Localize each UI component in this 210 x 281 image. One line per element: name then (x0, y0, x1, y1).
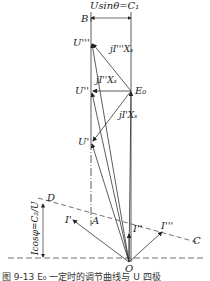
label-u3: U''' (73, 37, 90, 48)
figure-caption: 图 9-13 E₀ 一定时的调节曲线与 U 四极 (2, 271, 161, 281)
label-jI3Xs: jI'''Xₛ (108, 44, 133, 54)
label-i3: I''' (160, 220, 173, 231)
label-i2: I'' (132, 223, 142, 234)
label-u2: U'' (75, 85, 89, 96)
label-c: C (193, 235, 201, 246)
label-jI2Xs: jI''Xₛ (94, 75, 117, 85)
label-jI1Xs: jI'Xₛ (117, 110, 137, 120)
label-i1: I' (64, 214, 72, 225)
label-u1: U' (78, 136, 89, 147)
label-b: B (80, 13, 88, 24)
phasor-diagram: Usinθ=C₁ B U''' jI'''Xₛ jI''Xₛ U'' E₀ jI… (0, 0, 210, 281)
label-e0: E₀ (134, 85, 146, 96)
vector-i1 (73, 220, 129, 262)
label-d: D (46, 192, 55, 203)
label-icos: Icosφ=C₂/U (30, 201, 40, 256)
vector-i3 (129, 232, 162, 262)
label-a: A (91, 215, 99, 226)
vector-u1 (92, 144, 129, 262)
label-usin: Usinθ=C₁ (90, 0, 139, 11)
